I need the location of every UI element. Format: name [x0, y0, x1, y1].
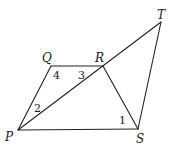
segment-ps	[18, 129, 138, 130]
segment-pq	[18, 66, 51, 130]
angle-label-3: 3	[78, 69, 85, 82]
angle-label-4: 4	[53, 69, 60, 82]
angle-label-1: 1	[119, 114, 126, 127]
vertex-label-t: T	[157, 8, 166, 22]
angle-label-2: 2	[34, 102, 41, 115]
vertex-label-r: R	[94, 51, 104, 65]
vertex-label-p: P	[4, 130, 14, 144]
segment-st	[138, 22, 161, 129]
vertex-label-q: Q	[42, 51, 52, 65]
vertex-label-s: S	[136, 132, 144, 146]
geometry-diagram: P Q R S T 4 3 2 1	[0, 0, 175, 152]
